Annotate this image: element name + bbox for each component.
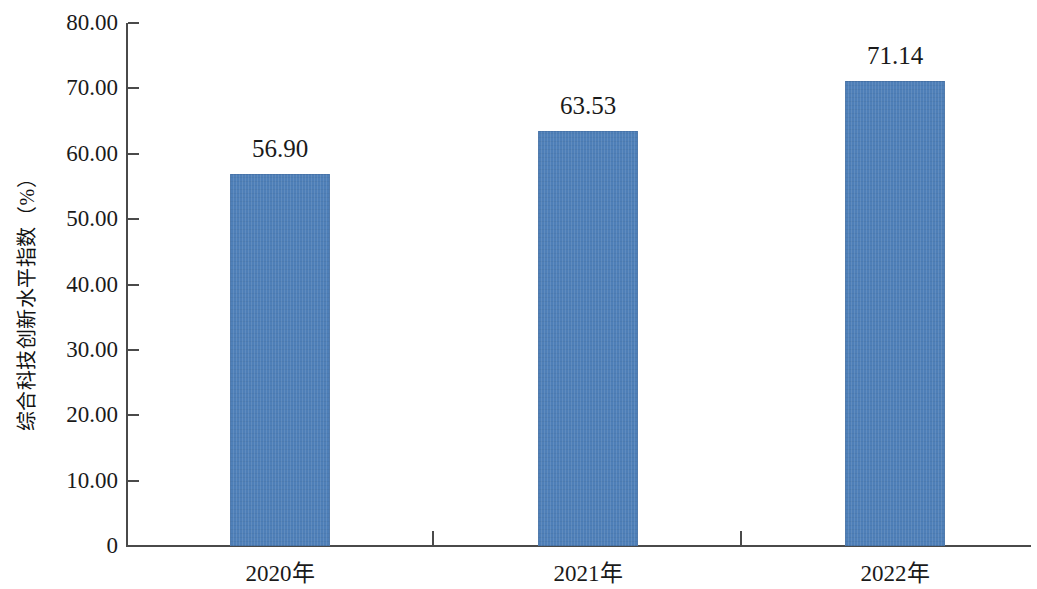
bar-chart: 综合科技创新水平指数（%） 010.0020.0030.0040.0050.00… [0, 0, 1037, 589]
bar [230, 174, 330, 546]
bar [538, 131, 638, 546]
bars-layer: 56.902020年63.532021年71.142022年 [0, 0, 1037, 589]
bar-value-label: 71.14 [815, 43, 975, 68]
x-axis-category-label: 2021年 [488, 562, 688, 585]
x-axis-category-label: 2022年 [795, 562, 995, 585]
bar [845, 81, 945, 546]
x-axis-category-label: 2020年 [180, 562, 380, 585]
bar-value-label: 63.53 [508, 93, 668, 118]
bar-value-label: 56.90 [200, 136, 360, 161]
